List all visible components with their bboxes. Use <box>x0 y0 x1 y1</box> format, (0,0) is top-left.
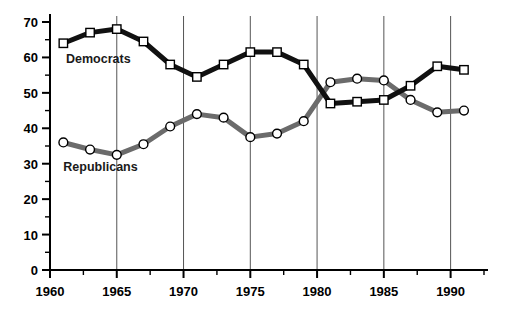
x-tick-label-1965: 1965 <box>102 284 131 299</box>
y-axis-ticks <box>42 22 50 270</box>
chart-canvas: 010203040506070 196019651970197519801985… <box>0 0 506 311</box>
data-point-republicans-1961 <box>59 138 68 147</box>
data-point-republicans-1977 <box>273 129 282 138</box>
y-tick-label-40: 40 <box>24 121 38 136</box>
y-tick-label-50: 50 <box>24 86 38 101</box>
data-point-republicans-1971 <box>192 110 201 119</box>
y-tick-label-10: 10 <box>24 228 38 243</box>
data-point-republicans-1987 <box>406 96 415 105</box>
data-point-democrats-1985 <box>380 96 388 104</box>
data-point-republicans-1975 <box>246 133 255 142</box>
data-point-republicans-1979 <box>299 117 308 126</box>
x-tick-label-1960: 1960 <box>36 284 65 299</box>
y-tick-label-30: 30 <box>24 157 38 172</box>
data-point-democrats-1965 <box>113 25 121 33</box>
data-point-democrats-1983 <box>353 98 361 106</box>
data-point-democrats-1987 <box>406 82 414 90</box>
x-tick-label-1985: 1985 <box>369 284 398 299</box>
x-tick-label-1990: 1990 <box>436 284 465 299</box>
y-tick-label-0: 0 <box>31 263 38 278</box>
data-point-republicans-1981 <box>326 78 335 87</box>
series-label-republicans: Republicans <box>63 160 137 174</box>
x-axis-ticks <box>50 270 484 278</box>
data-point-republicans-1969 <box>166 122 175 131</box>
data-point-republicans-1989 <box>433 108 442 117</box>
data-point-democrats-1971 <box>193 73 201 81</box>
x-tick-label-1975: 1975 <box>236 284 265 299</box>
y-tick-label-60: 60 <box>24 50 38 65</box>
data-point-republicans-1965 <box>112 150 121 159</box>
x-axis-tick-labels: 1960196519701975198019851990 <box>36 284 466 299</box>
data-point-republicans-1963 <box>86 145 95 154</box>
data-point-democrats-1989 <box>433 62 441 70</box>
data-point-republicans-1967 <box>139 140 148 149</box>
data-point-democrats-1975 <box>246 48 254 56</box>
data-point-democrats-1979 <box>300 60 308 68</box>
data-point-democrats-1969 <box>166 60 174 68</box>
data-point-republicans-1973 <box>219 113 228 122</box>
data-point-democrats-1963 <box>86 28 94 36</box>
y-tick-label-70: 70 <box>24 15 38 30</box>
data-point-democrats-1961 <box>59 39 67 47</box>
data-point-democrats-1991 <box>460 66 468 74</box>
data-point-republicans-1983 <box>353 74 362 83</box>
data-point-republicans-1985 <box>379 76 388 85</box>
data-point-republicans-1991 <box>460 106 469 115</box>
data-point-democrats-1981 <box>326 99 334 107</box>
line-chart: 010203040506070 196019651970197519801985… <box>0 0 506 311</box>
data-point-democrats-1973 <box>219 60 227 68</box>
data-point-democrats-1977 <box>273 48 281 56</box>
y-tick-label-20: 20 <box>24 192 38 207</box>
data-point-democrats-1967 <box>139 37 147 45</box>
x-tick-label-1980: 1980 <box>303 284 332 299</box>
y-axis-tick-labels: 010203040506070 <box>24 15 38 278</box>
series-label-democrats: Democrats <box>66 52 131 66</box>
x-tick-label-1970: 1970 <box>169 284 198 299</box>
